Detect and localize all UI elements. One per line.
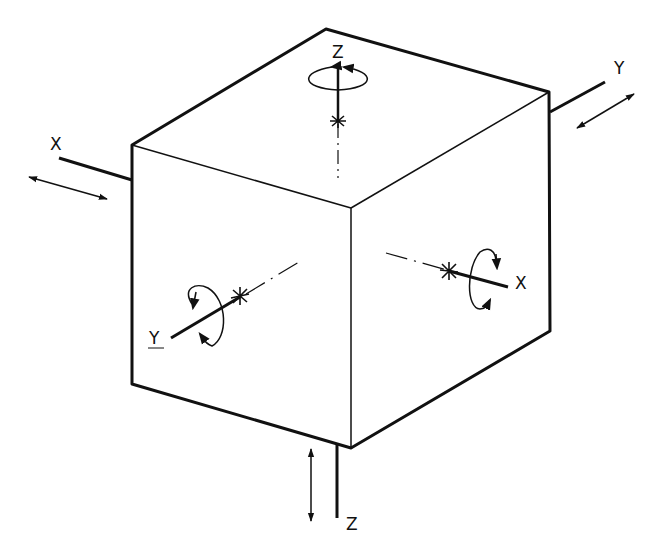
- y-axis-centerline-left: [246, 262, 299, 294]
- x-rotation-arrow-head-icon: [496, 254, 497, 268]
- label-y-top-right: Y: [613, 58, 625, 78]
- y-rotation-arrow-head-icon: [193, 292, 196, 308]
- x-rotation-right: [386, 249, 508, 309]
- cube: [132, 29, 550, 448]
- pivot-star-icon: [440, 262, 458, 280]
- label-z-bottom: Z: [346, 514, 358, 534]
- diagram-canvas: Z Y X Y X: [0, 0, 666, 554]
- label-x-left: X: [50, 134, 62, 154]
- y-axis-rod: [550, 82, 605, 112]
- y-translation-arrow-icon: [577, 94, 634, 128]
- z-rotation-top: [309, 66, 368, 178]
- cube-outline: [132, 29, 550, 448]
- cube-edge-top-left: [132, 145, 351, 208]
- y-rotation-left: [171, 262, 299, 346]
- pivot-star-icon: [330, 114, 346, 128]
- x-axis-centerline-right: [386, 253, 447, 270]
- y-translation: [550, 82, 634, 128]
- pivot-star-icon: [231, 287, 249, 305]
- cube-axes-diagram: Z Y X Y X: [0, 0, 666, 554]
- label-x-right-face: X: [515, 273, 527, 293]
- y-axis-rod-left: [171, 297, 240, 338]
- x-axis-rod-right: [449, 271, 508, 287]
- cube-edge-top-right: [351, 92, 549, 208]
- x-translation: [29, 158, 132, 199]
- label-y-left-face: Y: [148, 328, 160, 348]
- label-z-top: Z: [332, 42, 344, 62]
- x-translation-arrow-icon: [29, 177, 107, 199]
- z-translation: [311, 444, 337, 521]
- x-axis-rod: [59, 158, 132, 180]
